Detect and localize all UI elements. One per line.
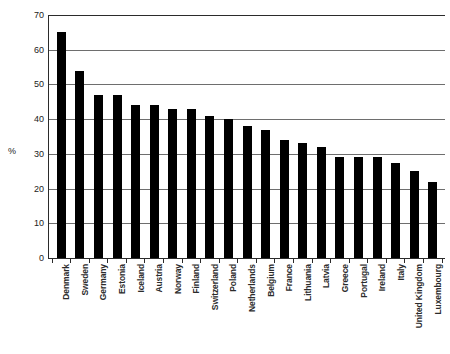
y-tick-label-10: 10	[22, 218, 44, 228]
x-tick	[405, 258, 424, 263]
x-label-slot: Germany	[89, 264, 108, 354]
bar	[391, 163, 400, 258]
x-tick	[368, 258, 387, 263]
x-tick	[163, 258, 182, 263]
bar-slot	[424, 15, 443, 258]
bar-chart: % 010203040506070 DenmarkSwedenGermanyEs…	[0, 0, 450, 354]
bar-slot	[201, 15, 220, 258]
bar-slot	[386, 15, 405, 258]
bar	[298, 143, 307, 258]
bar-slot	[405, 15, 424, 258]
x-tick	[52, 258, 71, 263]
x-tick	[312, 258, 331, 263]
y-tick-label-50: 50	[22, 79, 44, 89]
x-label-slot: Denmark	[52, 264, 71, 354]
x-label-slot: Norway	[163, 264, 182, 354]
x-axis-category-labels: DenmarkSwedenGermanyEstoniaIcelandAustri…	[49, 264, 445, 354]
bar	[261, 130, 270, 258]
bar	[187, 109, 196, 258]
bar	[280, 140, 289, 258]
x-label-slot: Estonia	[108, 264, 127, 354]
x-label-slot: Italy	[386, 264, 405, 354]
y-tick-label-30: 30	[22, 149, 44, 159]
x-label-slot: Ireland	[368, 264, 387, 354]
bar-slot	[182, 15, 201, 258]
bar-slot	[331, 15, 350, 258]
bar	[354, 157, 363, 258]
bar	[428, 182, 437, 258]
bar	[131, 105, 140, 258]
bar	[410, 171, 419, 258]
bar-slot	[126, 15, 145, 258]
x-label-slot: Portugal	[349, 264, 368, 354]
bar	[57, 32, 66, 258]
x-tick	[275, 258, 294, 263]
bar	[243, 126, 252, 258]
bar	[75, 71, 84, 258]
x-tick	[71, 258, 90, 263]
x-tick	[182, 258, 201, 263]
x-tick	[386, 258, 405, 263]
x-label-slot: Austria	[145, 264, 164, 354]
x-tick	[219, 258, 238, 263]
x-label-slot: Greece	[331, 264, 350, 354]
bar-slot	[52, 15, 71, 258]
x-label-slot: Belgium	[256, 264, 275, 354]
x-tick	[89, 258, 108, 263]
plot-area	[49, 15, 445, 258]
bar-slot	[294, 15, 313, 258]
bar	[113, 95, 122, 258]
bar	[373, 157, 382, 258]
x-label-slot: France	[275, 264, 294, 354]
x-tick	[126, 258, 145, 263]
bar-slot	[145, 15, 164, 258]
x-axis-ticks	[49, 258, 445, 263]
x-label-slot: United Kingdom	[405, 264, 424, 354]
bar	[317, 147, 326, 258]
bar-slot	[219, 15, 238, 258]
x-label-slot: Lithuania	[294, 264, 313, 354]
x-category-label: Luxembourg	[433, 264, 443, 314]
x-tick	[108, 258, 127, 263]
x-tick	[331, 258, 350, 263]
x-tick	[294, 258, 313, 263]
x-label-slot: Luxembourg	[424, 264, 443, 354]
x-label-slot: Netherlands	[238, 264, 257, 354]
bar-slot	[89, 15, 108, 258]
x-label-slot: Iceland	[126, 264, 145, 354]
bar-slot	[238, 15, 257, 258]
bar-slot	[108, 15, 127, 258]
y-tick-label-70: 70	[22, 10, 44, 20]
x-tick	[349, 258, 368, 263]
x-tick	[256, 258, 275, 263]
x-label-slot: Finland	[182, 264, 201, 354]
y-tick-label-40: 40	[22, 114, 44, 124]
x-tick	[238, 258, 257, 263]
bar-slot	[368, 15, 387, 258]
x-label-slot: Sweden	[71, 264, 90, 354]
y-axis-title: %	[8, 146, 16, 156]
bar	[335, 157, 344, 258]
bar-slot	[349, 15, 368, 258]
y-tick-label-20: 20	[22, 184, 44, 194]
x-label-slot: Latvia	[312, 264, 331, 354]
x-tick	[201, 258, 220, 263]
y-axis-tick-labels: 010203040506070	[22, 0, 44, 354]
y-tick-label-0: 0	[22, 253, 44, 263]
bar-slot	[275, 15, 294, 258]
bar	[205, 116, 214, 258]
bar-series	[49, 15, 445, 258]
bar-slot	[71, 15, 90, 258]
x-tick	[424, 258, 443, 263]
bar	[168, 109, 177, 258]
x-label-slot: Switzerland	[201, 264, 220, 354]
bar	[94, 95, 103, 258]
bar	[224, 119, 233, 258]
bar-slot	[256, 15, 275, 258]
bar	[150, 105, 159, 258]
bar-slot	[312, 15, 331, 258]
x-tick	[145, 258, 164, 263]
x-label-slot: Poland	[219, 264, 238, 354]
bar-slot	[163, 15, 182, 258]
y-tick-label-60: 60	[22, 45, 44, 55]
